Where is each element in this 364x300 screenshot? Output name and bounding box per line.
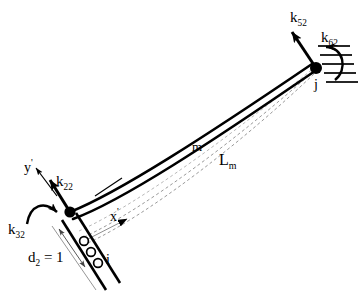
label-k52: k52 xyxy=(290,10,307,28)
label-member-length: Lm xyxy=(219,152,237,171)
roller-circle-2 xyxy=(87,248,96,257)
label-node-j: j xyxy=(314,78,318,92)
label-k62: k62 xyxy=(321,30,338,48)
figure-canvas: k22 k32 k52 k62 y' x' i j m Lm d2 = 1 xyxy=(0,0,364,300)
member-edge-upper xyxy=(70,64,312,212)
roller-rail-upper xyxy=(62,220,106,290)
axis-arrow-y-prime xyxy=(36,168,57,196)
label-displacement-d2: d2 = 1 xyxy=(28,250,64,268)
moment-arrow-k32 xyxy=(27,206,57,224)
roller-circle-1 xyxy=(80,237,89,246)
support-roller-node-i xyxy=(62,213,120,290)
roller-circle-3 xyxy=(94,259,103,268)
label-x-prime-axis: x' xyxy=(110,207,119,224)
label-k22: k22 xyxy=(56,174,73,192)
label-y-prime-axis: y' xyxy=(24,158,33,175)
label-k32: k32 xyxy=(8,222,25,240)
chord-line-lower xyxy=(88,72,316,243)
label-node-i: i xyxy=(106,253,110,267)
label-member-m: m xyxy=(192,140,202,153)
force-arrow-k52 xyxy=(292,32,316,68)
